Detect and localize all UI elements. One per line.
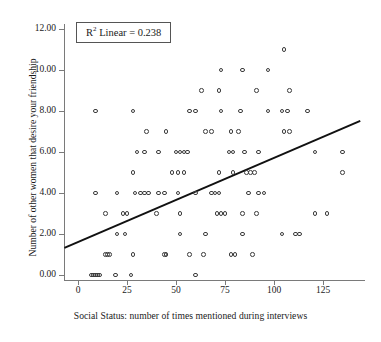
data-point — [115, 232, 120, 237]
data-point — [203, 129, 208, 134]
data-point — [266, 68, 271, 73]
data-point — [325, 211, 330, 216]
data-point — [125, 211, 130, 216]
data-point — [313, 211, 318, 216]
data-point — [240, 232, 245, 237]
data-point — [164, 252, 169, 257]
data-point — [229, 129, 234, 134]
data-point — [233, 252, 238, 257]
data-point — [199, 88, 204, 93]
data-point — [280, 109, 285, 114]
data-point — [282, 47, 287, 52]
data-point — [156, 191, 161, 196]
data-point — [142, 150, 147, 155]
data-point — [193, 273, 198, 278]
data-point — [217, 191, 222, 196]
data-point — [154, 211, 159, 216]
data-point — [282, 129, 287, 134]
data-point — [162, 191, 167, 196]
data-point — [305, 109, 310, 114]
y-axis-title: Number of other women that desire your f… — [27, 22, 38, 294]
data-point — [164, 129, 169, 134]
data-point — [217, 88, 222, 93]
data-point — [340, 170, 345, 175]
data-point — [256, 191, 261, 196]
data-point — [133, 191, 138, 196]
data-point — [131, 170, 136, 175]
data-point — [231, 150, 236, 155]
data-point — [115, 191, 120, 196]
data-point — [266, 109, 271, 114]
data-point — [107, 252, 112, 257]
data-point — [123, 232, 128, 237]
data-point — [246, 191, 251, 196]
data-point — [238, 109, 243, 114]
data-point — [340, 150, 345, 155]
data-point — [254, 211, 259, 216]
data-point — [135, 150, 140, 155]
r2-prefix: R — [86, 27, 93, 38]
data-point — [217, 170, 222, 175]
data-point — [223, 211, 228, 216]
data-point — [193, 109, 198, 114]
data-point — [103, 211, 108, 216]
data-points-layer — [0, 0, 381, 342]
data-point — [131, 252, 136, 257]
r-squared-annotation: R2 Linear = 0.238 — [76, 22, 171, 43]
data-point — [170, 170, 175, 175]
data-point — [256, 150, 261, 155]
data-point — [219, 68, 224, 73]
data-point — [250, 252, 255, 257]
data-point — [285, 109, 290, 114]
data-point — [93, 109, 98, 114]
data-point — [203, 232, 208, 237]
data-point — [236, 129, 241, 134]
data-point — [187, 109, 192, 114]
data-point — [254, 88, 259, 93]
data-point — [240, 211, 245, 216]
data-point — [176, 170, 181, 175]
data-point — [287, 88, 292, 93]
data-point — [185, 150, 190, 155]
data-point — [240, 68, 245, 73]
data-point — [144, 129, 149, 134]
data-point — [262, 191, 267, 196]
data-point — [113, 273, 118, 278]
data-point — [209, 129, 214, 134]
data-point — [129, 273, 134, 278]
data-point — [178, 211, 183, 216]
data-point — [242, 150, 247, 155]
data-point — [146, 191, 151, 196]
data-point — [182, 170, 187, 175]
x-axis-title: Social Status: number of times mentioned… — [0, 310, 381, 321]
scatter-chart: 0.002.004.006.008.0010.0012.00 025507510… — [0, 0, 381, 342]
data-point — [297, 232, 302, 237]
data-point — [193, 191, 198, 196]
data-point — [93, 191, 98, 196]
data-point — [187, 252, 192, 257]
data-point — [156, 150, 161, 155]
data-point — [201, 252, 206, 257]
data-point — [313, 150, 318, 155]
data-point — [287, 129, 292, 134]
r2-suffix: Linear = 0.238 — [97, 27, 162, 38]
data-point — [131, 109, 136, 114]
data-point — [178, 232, 183, 237]
data-point — [97, 273, 102, 278]
data-point — [231, 170, 236, 175]
data-point — [252, 170, 257, 175]
data-point — [280, 232, 285, 237]
data-point — [176, 191, 181, 196]
data-point — [219, 109, 224, 114]
